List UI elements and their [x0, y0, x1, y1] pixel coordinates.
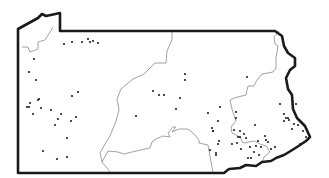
site-dot [175, 108, 177, 110]
site-dot [231, 143, 233, 145]
site-dot [40, 107, 42, 109]
site-dot [158, 94, 160, 96]
site-dot [184, 73, 186, 75]
site-dot [235, 111, 237, 113]
site-dot [38, 98, 40, 100]
site-dot [35, 79, 37, 81]
site-dot [66, 137, 68, 139]
site-dot [218, 140, 220, 142]
site-dot [179, 97, 181, 99]
site-dot [60, 113, 62, 115]
site-dot [89, 41, 91, 43]
site-dot [299, 143, 301, 145]
site-dot [247, 157, 249, 159]
site-dot [92, 40, 94, 42]
site-dot [305, 136, 307, 138]
site-dot [66, 156, 68, 158]
site-dot [215, 152, 217, 154]
site-dot [283, 113, 285, 115]
state-outline [18, 13, 310, 173]
site-dot [243, 133, 245, 135]
site-dot [184, 79, 186, 81]
site-dot [235, 117, 237, 119]
site-dot [291, 128, 293, 130]
site-dot [233, 129, 235, 131]
site-dot [56, 158, 58, 160]
pennsylvania-map [0, 0, 329, 178]
site-dot [236, 142, 238, 144]
region-boundaries [22, 27, 279, 173]
site-dot [75, 116, 77, 118]
site-dot [270, 148, 272, 150]
site-dot [71, 41, 73, 43]
site-dot [240, 148, 242, 150]
site-dot [87, 38, 89, 40]
site-dot [257, 140, 259, 142]
site-dot [258, 154, 260, 156]
site-dot [274, 146, 276, 148]
site-dot [246, 76, 248, 78]
region-boundary-line [22, 27, 53, 52]
site-dot [152, 90, 154, 92]
site-dot [288, 119, 290, 121]
site-dot [295, 103, 297, 105]
site-dot [253, 151, 255, 153]
site-dot [297, 124, 299, 126]
site-dot [267, 141, 269, 143]
site-dot [63, 43, 65, 45]
site-dot [28, 106, 30, 108]
site-dot [212, 130, 214, 132]
site-dot [97, 42, 99, 44]
site-dot [255, 145, 257, 147]
site-dot [283, 120, 285, 122]
site-dot [77, 91, 79, 93]
site-dot [285, 117, 287, 119]
region-boundary-line [102, 127, 213, 173]
site-dot [287, 117, 289, 119]
site-dot [265, 139, 267, 141]
site-dot [239, 130, 241, 132]
site-dot [26, 106, 28, 108]
site-dot [250, 157, 252, 159]
site-dot [254, 124, 256, 126]
site-dot [50, 109, 52, 111]
site-dot [293, 123, 295, 125]
site-dot [217, 143, 219, 145]
site-dot [28, 71, 30, 73]
site-dot [54, 124, 56, 126]
site-dot [302, 130, 304, 132]
site-dot [239, 136, 241, 138]
site-dot [57, 118, 59, 120]
site-dot [42, 150, 44, 152]
site-dot [135, 115, 137, 117]
site-dot [70, 120, 72, 122]
site-dot [163, 94, 165, 96]
site-dot [260, 146, 262, 148]
region-boundary-line [100, 31, 172, 173]
site-dot [32, 113, 34, 115]
site-dot [264, 135, 266, 137]
site-dot [279, 103, 281, 105]
site-dot [81, 41, 83, 43]
site-dot [29, 102, 31, 104]
site-dot [209, 149, 211, 151]
site-dot [71, 95, 73, 97]
site-dot [217, 120, 219, 122]
site-dot [211, 127, 213, 129]
site-dot [207, 112, 209, 114]
site-dot [237, 136, 239, 138]
site-dot [249, 146, 251, 148]
site-dot [33, 58, 35, 60]
site-dot [245, 137, 247, 139]
site-dot [215, 154, 217, 156]
site-dot [219, 106, 221, 108]
